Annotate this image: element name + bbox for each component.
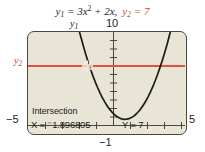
equation-y1-body: = 3x <box>64 5 87 17</box>
equation-y1: y1 = 3x2 + 2x, <box>56 5 118 17</box>
readout-y: Y = 7 <box>122 119 143 130</box>
readout-x-label: X = <box>31 119 45 130</box>
readout-title: Intersection <box>32 106 77 116</box>
axis-label-ymin: −1 <box>99 136 112 148</box>
curve-label-y1-subscript: 1 <box>74 22 78 31</box>
readout-y-value: 7 <box>138 119 143 130</box>
curve-y1 <box>80 32 171 119</box>
readout-x-value: ⁻1.896805 <box>47 119 90 130</box>
readout-y-label: Y = <box>122 119 136 130</box>
axis-label-xmin: −5 <box>6 113 19 125</box>
equation-y1-tail: + 2x, <box>91 5 117 17</box>
axis-label-ymax: 10 <box>106 17 118 29</box>
readout-x: X = ⁻1.896805 <box>31 119 90 130</box>
equation-y2: y2 = 7 <box>122 5 149 17</box>
axis-label-xmax: 5 <box>189 113 195 125</box>
curve-label-y1: y1 <box>70 18 78 31</box>
equation-caption: y1 = 3x2 + 2x,y2 = 7 <box>0 4 205 20</box>
line-label-y2: y2 <box>14 55 22 68</box>
equation-y2-rhs: = 7 <box>131 5 149 17</box>
graphing-calculator-screen[interactable]: Intersection X = ⁻1.896805 Y = 7 <box>27 31 187 135</box>
graph-plot <box>28 32 185 133</box>
line-label-y2-subscript: 2 <box>18 59 22 68</box>
